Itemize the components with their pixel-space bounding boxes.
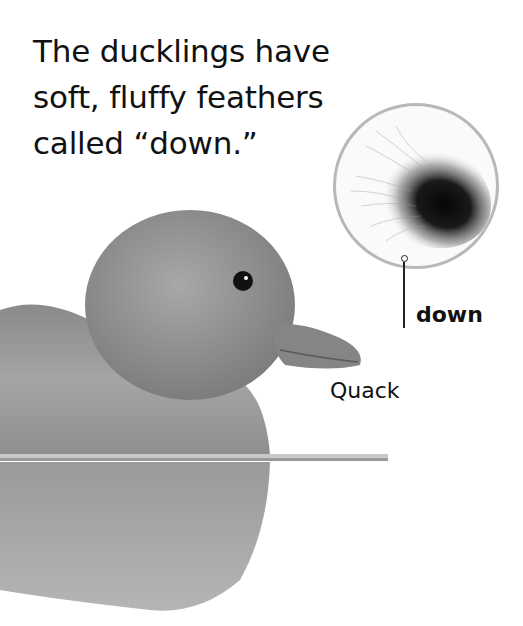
duckling-image — [0, 200, 400, 626]
heading-line-3: called “down.” — [33, 120, 373, 166]
page-heading: The ducklings have soft, fluffy feathers… — [33, 28, 373, 166]
callout-dot — [401, 255, 408, 262]
heading-line-1: The ducklings have — [33, 28, 373, 74]
callout-line — [403, 262, 405, 328]
heading-line-2: soft, fluffy feathers — [33, 74, 373, 120]
label-down: down — [416, 302, 483, 327]
